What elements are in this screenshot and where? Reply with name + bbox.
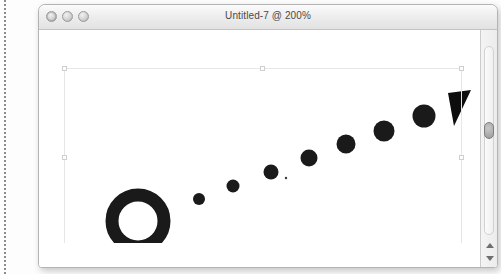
dot-shape[interactable] bbox=[337, 135, 356, 154]
dot-shape[interactable] bbox=[227, 180, 240, 193]
scroll-up-icon[interactable] bbox=[486, 243, 494, 248]
window-title: Untitled-7 @ 200% bbox=[39, 10, 497, 21]
dot-shape[interactable] bbox=[374, 121, 395, 142]
dot-shape[interactable] bbox=[264, 165, 279, 180]
dot-shape[interactable] bbox=[413, 105, 436, 128]
vertical-scrollbar[interactable] bbox=[480, 30, 497, 267]
anchor-dot bbox=[285, 177, 287, 179]
dot-shape[interactable] bbox=[301, 150, 318, 167]
page-margin-guide bbox=[4, 0, 6, 274]
window-titlebar[interactable]: Untitled-7 @ 200% bbox=[39, 5, 497, 30]
document-window: Untitled-7 @ 200% bbox=[38, 4, 498, 268]
vertical-scrollbar-track[interactable] bbox=[484, 46, 494, 235]
artwork bbox=[39, 30, 480, 243]
window-content bbox=[39, 30, 497, 267]
arrowhead-shape[interactable] bbox=[448, 90, 471, 126]
dot-shape[interactable] bbox=[193, 193, 205, 205]
status-bar: ✶ 200% ❘◀ ◀ 2 ▶ ▶❘ ⓘ Never Saved bbox=[39, 267, 497, 268]
drawing-canvas[interactable] bbox=[39, 30, 480, 243]
ring-shape[interactable] bbox=[112, 195, 164, 243]
screenshot-root: Untitled-7 @ 200% bbox=[0, 0, 501, 274]
vertical-scrollbar-thumb[interactable] bbox=[484, 122, 494, 139]
scroll-down-icon[interactable] bbox=[486, 256, 494, 261]
